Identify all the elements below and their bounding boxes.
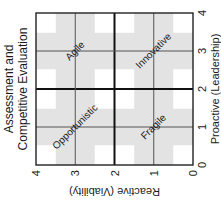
x-tick-label: 1 <box>196 124 208 130</box>
quadrant-corner <box>95 69 115 89</box>
y-axis-label: Reactive (Viability) <box>69 186 160 198</box>
y-tick-label: 1 <box>148 170 160 176</box>
x-axis-label: Proactive (Leadership) <box>209 34 221 145</box>
quadrant-corner <box>173 69 193 89</box>
quadrant-corner <box>173 13 193 33</box>
y-tick-label: 4 <box>30 170 42 176</box>
chart-title-line-2: Competitive Evaluation <box>16 28 30 151</box>
chart-viewport: 0123401234 FragileInnovativeOpportunisti… <box>0 0 221 214</box>
quadrant-corner <box>36 89 56 109</box>
quadrant-corner <box>36 145 56 165</box>
x-tick-label: 3 <box>196 48 208 54</box>
y-tick-label: 2 <box>109 170 121 176</box>
quadrant-corner <box>115 13 135 33</box>
quadrant-chart: 0123401234 FragileInnovativeOpportunisti… <box>0 0 221 214</box>
quadrant-corner <box>95 13 115 33</box>
x-tick-label: 4 <box>196 10 208 16</box>
x-tick-label: 0 <box>196 162 208 168</box>
x-tick-label: 2 <box>196 86 208 92</box>
quadrant-corner <box>173 89 193 109</box>
y-tick-label: 0 <box>187 170 199 176</box>
quadrant-corner <box>173 145 193 165</box>
chart-title-line-1: Assessment and <box>2 45 16 134</box>
quadrant-corner <box>95 145 115 165</box>
quadrant-corner <box>36 13 56 33</box>
quadrant-corner <box>95 89 115 109</box>
quadrant-corner <box>115 69 135 89</box>
y-tick-label: 3 <box>69 170 81 176</box>
quadrant-corner <box>115 89 135 109</box>
quadrant-corner <box>115 145 135 165</box>
quadrant-corner <box>36 69 56 89</box>
chart-svg: 0123401234 FragileInnovativeOpportunisti… <box>0 0 221 214</box>
